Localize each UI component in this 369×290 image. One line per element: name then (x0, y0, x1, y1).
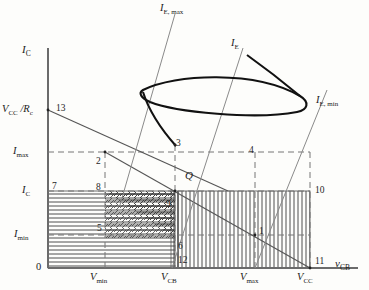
point-13: 13 (56, 104, 66, 114)
point-10: 10 (315, 186, 325, 196)
loop-upper-tail (247, 55, 300, 96)
point-6: 6 (178, 242, 183, 252)
point-9: 9 (166, 200, 171, 210)
ie-label: IE (231, 38, 239, 51)
x-tick-vmax: Vmax (240, 272, 258, 285)
y-tick-imax: Imax (13, 146, 29, 159)
transistor-load-line-diagram (0, 0, 369, 290)
q-point-label: Q (185, 170, 193, 181)
x-tick-vmin: Vmin (90, 272, 107, 285)
point-4: 4 (249, 146, 254, 156)
y-tick-ic: IC (22, 185, 30, 198)
y-axis-label: IC (22, 44, 31, 58)
y-tick-vcc-rc: VCC /Rc (2, 104, 33, 117)
point-12: 12 (178, 256, 188, 266)
x-axis-label: vCB (335, 258, 350, 272)
figure-container: IC vCB VCC /Rc Imax IC Imin 0 Vmin VCB V… (0, 0, 369, 290)
ie-min-label: IE, min (316, 95, 338, 108)
point-3: 3 (176, 139, 181, 149)
point-8: 8 (96, 183, 101, 193)
cross-hatch-triangle (105, 191, 175, 238)
x-tick-vcc: VCC (297, 272, 313, 285)
point-11: 11 (315, 257, 324, 267)
ie-max-label: IE, max (160, 3, 183, 16)
point-1: 1 (259, 227, 264, 237)
point-5: 5 (97, 224, 102, 234)
y-tick-imin: Imin (14, 229, 28, 242)
y-tick-zero: 0 (36, 262, 41, 273)
point-7: 7 (52, 182, 57, 192)
point-2: 2 (96, 157, 101, 167)
x-tick-vcb: VCB (161, 272, 177, 285)
